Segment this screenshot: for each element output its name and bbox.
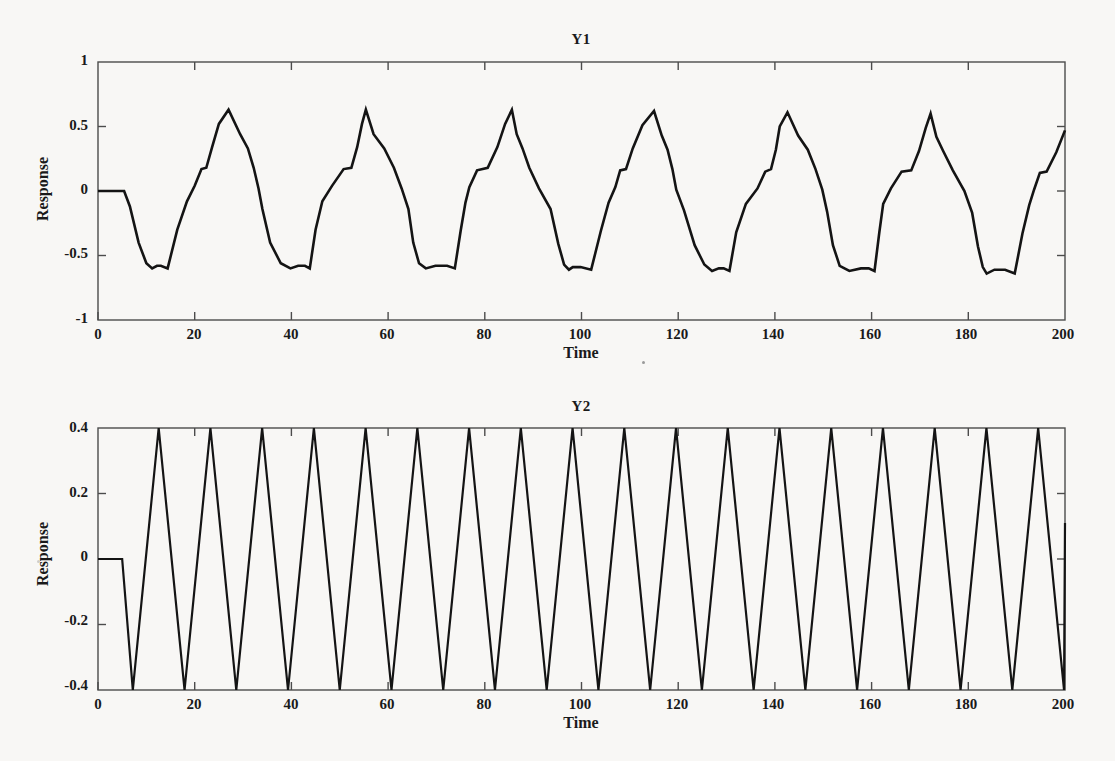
figure-canvas: Y1 Response Time 1 0.5 0 -0.5 -1 0 20 40… — [0, 0, 1115, 761]
data-trace-y2 — [98, 428, 1065, 690]
chart-panel-y1: Y1 Response Time 1 0.5 0 -0.5 -1 0 20 40… — [0, 0, 1115, 380]
plot-area-y1 — [0, 0, 1115, 380]
data-trace-y1 — [98, 110, 1065, 274]
chart-panel-y2: Y2 Response Time 0.4 0.2 0 -0.2 -0.4 0 2… — [0, 380, 1115, 761]
scan-speck — [642, 361, 645, 364]
scan-speck — [37, 560, 40, 563]
plot-area-y2 — [0, 380, 1115, 761]
x-tickmarks-y1 — [98, 62, 968, 320]
